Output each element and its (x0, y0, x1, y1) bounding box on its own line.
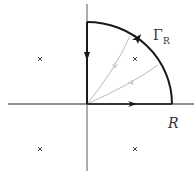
ray-upper-arrow (112, 62, 118, 68)
ray-lower (87, 65, 158, 104)
pole-upper-left (38, 57, 42, 61)
gamma-label: Γ (153, 27, 163, 43)
contour-diagram: Γ R R (0, 0, 196, 173)
pole-lower-right (133, 147, 137, 151)
arrow-down-icon (84, 52, 90, 61)
pole-upper-right (133, 57, 137, 61)
pole-lower-left (38, 147, 42, 151)
radius-label: R (167, 115, 179, 131)
gamma-subscript: R (163, 36, 170, 46)
